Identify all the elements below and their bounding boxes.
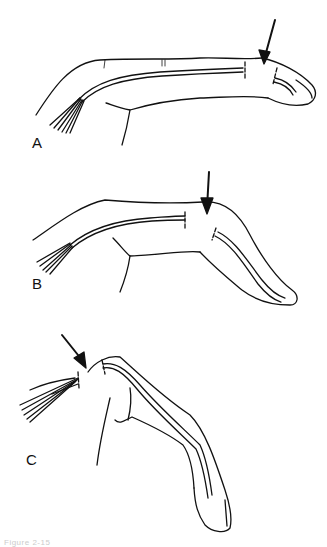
panel-label-a: A <box>32 134 42 151</box>
figure-caption: Figure 2-15 <box>4 538 50 547</box>
panel-c-drawing <box>20 335 231 532</box>
panel-label-b: B <box>32 275 42 292</box>
panel-a-drawing <box>36 20 315 145</box>
panel-label-c: C <box>26 451 37 468</box>
finger-tendon-illustration <box>0 0 327 547</box>
panel-b-drawing <box>33 172 297 305</box>
